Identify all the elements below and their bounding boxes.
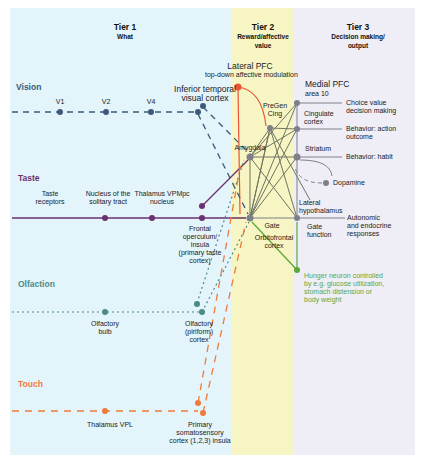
v4-label: V4 [141, 98, 161, 106]
olfaction-nodes [102, 301, 205, 315]
taste-label: Taste [18, 173, 40, 183]
lateral-pfc-sublabel: top-down affective modulation [205, 71, 295, 79]
lateral-hypothalamus-label: Lateral hypothalamus [299, 199, 343, 215]
itc-label: Inferior temporal visual cortex [170, 85, 240, 103]
lateral-pfc-label: Lateral PFC [220, 62, 280, 71]
cingulate-label: Cingulate cortex [304, 110, 334, 126]
piriform-label: Olfactory (piriform) cortex [178, 320, 220, 344]
hunger-node [294, 267, 300, 273]
touch-nodes [102, 400, 206, 416]
vision-label: Vision [16, 82, 41, 92]
amygdala-label: Amygdala [230, 144, 270, 152]
insula-label: Frontal operculum/ insula (primary taste… [172, 225, 228, 265]
reward-pathway-diagram: Tier 1 What Tier 2 Reward/affective valu… [0, 0, 422, 465]
vpmpc-label: Thalamus VPMpc nucleus [132, 190, 192, 206]
touch-label: Touch [18, 379, 43, 389]
action-outcome-output: Behavior: action outcome [346, 125, 396, 141]
gate-label: Gate [262, 222, 282, 230]
gate-function-label: Gate function [307, 223, 332, 239]
taste-lines [12, 160, 248, 218]
medial-pfc-label: Medial PFC [305, 80, 349, 89]
striatum-label: Striatum [305, 145, 331, 153]
olfactory-bulb-label: Olfactory bulb [85, 320, 125, 336]
pregen-cing-label: PreGen Cing [260, 102, 290, 118]
choice-value-output: Choice value decision making [346, 99, 396, 115]
somatosensory-label: Primary somatosensory cortex (1,2,3) ins… [165, 421, 235, 445]
dopamine-label: Dopamine [333, 179, 365, 187]
thalamus-vpl-label: Thalamus VPL [85, 421, 135, 429]
vision-nodes [57, 103, 206, 115]
autonomic-output: Autonomic and endocrine responses [347, 214, 391, 238]
habit-output: Behavior: habit [346, 153, 393, 161]
nts-label: Nucleus of the solitary tract [80, 190, 136, 206]
taste-receptors-label: Taste receptors [25, 190, 75, 206]
ofc-label: Orbitofrontal cortex [252, 234, 296, 250]
hunger-neuron-label: Hunger neuron controlled by e.g. glucose… [304, 272, 384, 304]
olfaction-label: Olfaction [18, 279, 55, 289]
v1-label: V1 [50, 98, 70, 106]
medial-pfc-sublabel: area 10 [305, 90, 329, 98]
v2-label: V2 [96, 98, 116, 106]
